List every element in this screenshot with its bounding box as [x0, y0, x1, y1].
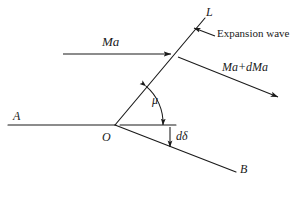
label-outgoing-mach: Ma+dMa: [222, 61, 268, 73]
label-expansion-wave: Expansion wave: [217, 28, 289, 39]
expansion-wave-line: [115, 18, 205, 125]
label-incoming-mach: Ma: [102, 35, 119, 48]
label-downstream-wall-B: B: [240, 163, 247, 175]
label-mach-angle: μ: [152, 94, 158, 106]
expansion-wave-pointer-arrow: [194, 28, 215, 36]
expansion-wave-diagram: L Ma Expansion wave Ma+dMa μ A O dδ B: [0, 0, 305, 199]
label-deflection-angle: dδ: [176, 130, 188, 142]
label-wave-line-L: L: [206, 6, 213, 18]
label-upstream-wall-A: A: [13, 110, 20, 122]
label-vertex-O: O: [102, 131, 111, 143]
